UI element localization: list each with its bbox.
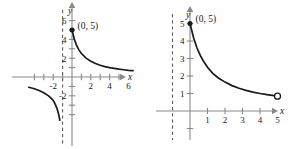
curve-restricted-branch <box>190 24 278 97</box>
y-axis-tick-label: 5 <box>180 19 185 29</box>
y-axis-tick-label: 6 <box>62 16 67 26</box>
right-graph-panel: 1234512345xy(0, 5) <box>150 0 300 149</box>
two-graph-figure: -2246642-2xy(0, 5) 1234512345xy(0, 5) <box>0 0 300 149</box>
point-label: (0, 5) <box>196 14 217 25</box>
y-axis-tick-label: 2 <box>180 71 185 81</box>
x-axis-tick-label: 4 <box>107 81 112 91</box>
x-axis-label: x <box>127 72 133 82</box>
x-axis-label: x <box>279 106 285 116</box>
curve-lower-left-branch <box>29 87 60 120</box>
x-axis-tick-label: 2 <box>223 115 228 125</box>
curve-upper-right-branch <box>72 30 133 71</box>
x-axis-tick-label: 2 <box>89 81 94 91</box>
x-axis-arrowhead <box>272 108 278 115</box>
y-axis-tick-label: -2 <box>59 91 67 101</box>
y-axis-label: y <box>185 10 191 20</box>
x-axis-tick-label: 4 <box>258 115 263 125</box>
y-axis-label: y <box>67 6 73 16</box>
point-marker-filled <box>188 21 193 26</box>
x-axis-tick-label: 6 <box>126 81 131 91</box>
y-axis-tick-label: 1 <box>180 89 185 99</box>
y-axis-tick-label: 2 <box>62 54 67 64</box>
right-graph-svg: 1234512345xy(0, 5) <box>150 0 300 149</box>
left-graph-panel: -2246642-2xy(0, 5) <box>0 0 150 149</box>
point-marker-filled <box>70 28 75 33</box>
y-axis-tick-label: 4 <box>62 35 67 45</box>
point-marker-open <box>275 93 281 99</box>
x-axis-tick-label: 1 <box>205 115 210 125</box>
x-axis-tick-label: 5 <box>275 115 280 125</box>
x-axis-tick-label: 3 <box>240 115 245 125</box>
point-label: (0, 5) <box>78 21 99 32</box>
y-axis-tick-label: 3 <box>180 54 185 64</box>
x-axis-arrowhead <box>120 74 126 81</box>
x-axis-tick-label: -2 <box>49 81 57 91</box>
y-axis-tick-label: 4 <box>180 36 185 46</box>
left-graph-svg: -2246642-2xy(0, 5) <box>0 0 150 149</box>
